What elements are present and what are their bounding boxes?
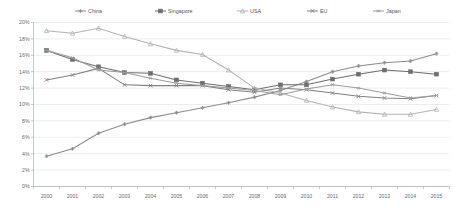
data-point-square	[409, 70, 413, 74]
chart-legend: ChinaSingaporeUSAEUJapan	[75, 8, 401, 14]
data-point-plus	[45, 154, 49, 158]
legend-item-china[interactable]: China	[75, 8, 102, 14]
x-axis-tick-label: 2005	[171, 193, 183, 199]
data-point-square	[175, 78, 179, 82]
data-point-square	[383, 68, 387, 72]
legend-item-usa[interactable]: USA	[237, 8, 261, 14]
x-axis-tick-label: 2013	[379, 193, 391, 199]
y-axis-tick-label: 4%	[22, 151, 30, 157]
data-point-square	[357, 72, 361, 76]
data-point-plus	[383, 61, 387, 65]
series-japan	[45, 49, 439, 99]
data-point-square	[149, 71, 153, 75]
legend-label: China	[88, 8, 102, 14]
x-axis-tick-label: 2000	[41, 193, 53, 199]
data-point-plus	[201, 106, 205, 110]
y-axis-tick-label: 16%	[19, 52, 30, 58]
series-line	[47, 54, 437, 157]
series-lines	[44, 26, 438, 158]
x-axis-tick-label: 2015	[431, 193, 443, 199]
x-axis-tick-label: 2014	[405, 193, 417, 199]
legend-label: Singapore	[168, 8, 193, 14]
x-axis: 2000200120022003200420052006200720082009…	[34, 187, 450, 199]
legend-item-eu[interactable]: EU	[307, 8, 328, 14]
series-line	[47, 68, 437, 98]
x-axis-tick-label: 2001	[67, 193, 79, 199]
data-point-star	[435, 94, 439, 97]
data-point-triangle	[434, 107, 438, 111]
data-point-star	[331, 83, 335, 86]
data-point-star	[279, 93, 283, 96]
data-point-star	[97, 69, 101, 72]
data-point-plus	[97, 131, 101, 135]
data-point-plus	[331, 70, 335, 74]
series-line	[47, 50, 437, 89]
data-point-square	[279, 83, 283, 87]
legend-item-japan[interactable]: Japan	[373, 8, 401, 14]
x-axis-tick-label: 2008	[249, 193, 261, 199]
data-point-plus	[149, 116, 153, 120]
x-axis-tick-label: 2006	[197, 193, 209, 199]
legend-label: EU	[320, 8, 328, 14]
data-point-plus	[435, 52, 439, 56]
data-point-star	[357, 87, 361, 90]
x-axis-tick-label: 2012	[353, 193, 365, 199]
data-point-plus	[409, 59, 413, 63]
x-axis-tick-label: 2003	[119, 193, 131, 199]
data-point-square	[331, 77, 335, 81]
legend-label: Japan	[386, 8, 401, 14]
legend-item-singapore[interactable]: Singapore	[155, 8, 193, 14]
data-point-plus	[71, 147, 75, 151]
y-axis-tick-label: 20%	[19, 19, 30, 25]
y-axis-tick-label: 2%	[22, 167, 30, 173]
gridlines	[34, 23, 450, 187]
y-axis-tick-label: 8%	[22, 118, 30, 124]
y-axis-tick-label: 18%	[19, 36, 30, 42]
data-point-star	[175, 82, 179, 85]
data-point-triangle	[44, 29, 48, 33]
x-axis-tick-label: 2009	[275, 193, 287, 199]
data-point-star	[149, 77, 153, 80]
x-axis-tick-label: 2004	[145, 193, 157, 199]
y-axis-tick-label: 14%	[19, 69, 30, 75]
x-axis-tick-label: 2002	[93, 193, 105, 199]
y-axis-tick-label: 0%	[22, 183, 30, 189]
data-point-plus	[357, 64, 361, 68]
x-axis-tick-label: 2011	[327, 193, 338, 199]
x-axis-tick-label: 2007	[223, 193, 235, 199]
y-axis-tick-label: 12%	[19, 85, 30, 91]
legend-marker-square	[159, 9, 163, 13]
data-point-plus	[253, 95, 257, 99]
y-axis-tick-label: 6%	[22, 134, 30, 140]
data-point-star	[383, 92, 387, 95]
x-axis-tick-label: 2010	[301, 193, 313, 199]
legend-label: USA	[250, 8, 261, 14]
legend-marker-plus	[79, 9, 83, 13]
legend-marker-star	[377, 10, 381, 13]
line-chart: 0%2%4%6%8%10%12%14%16%18%20% 20002001200…	[0, 0, 453, 214]
data-point-square	[305, 83, 309, 87]
data-point-plus	[175, 111, 179, 115]
chart-canvas: 0%2%4%6%8%10%12%14%16%18%20% 20002001200…	[0, 0, 453, 214]
data-point-plus	[227, 101, 231, 105]
data-point-square	[435, 72, 439, 76]
y-axis-tick-label: 10%	[19, 101, 30, 107]
y-axis: 0%2%4%6%8%10%12%14%16%18%20%	[19, 19, 33, 189]
data-point-plus	[123, 122, 127, 126]
